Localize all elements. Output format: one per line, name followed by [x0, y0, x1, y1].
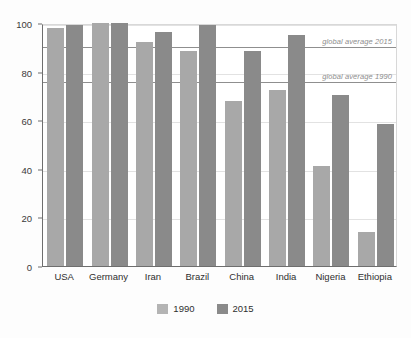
legend-swatch-icon	[217, 304, 228, 314]
bar-ethiopia-2015	[377, 124, 394, 266]
legend-item-1990[interactable]: 1990	[157, 303, 194, 314]
legend-swatch-icon	[157, 304, 168, 314]
bar-ethiopia-1990	[358, 232, 375, 266]
bar-group	[221, 25, 265, 266]
legend-label: 1990	[173, 303, 194, 314]
legend-label: 2015	[233, 303, 254, 314]
bar-india-1990	[269, 90, 286, 266]
x-tick-label: Nigeria	[315, 271, 345, 282]
x-tick-label: Ethiopia	[358, 271, 392, 282]
bar-brazil-2015	[199, 25, 216, 266]
x-tick-label: India	[276, 271, 297, 282]
bar-group	[309, 25, 353, 266]
y-tick-label: 100	[2, 19, 32, 30]
bar-iran-2015	[155, 32, 172, 266]
y-tick-label: 60	[2, 116, 32, 127]
legend-item-2015[interactable]: 2015	[217, 303, 254, 314]
bar-nigeria-1990	[313, 166, 330, 266]
x-tick-label: China	[229, 271, 254, 282]
bar-group	[265, 25, 309, 266]
bar-usa-1990	[47, 28, 64, 266]
bar-nigeria-2015	[332, 95, 349, 266]
x-tick-label: USA	[54, 271, 74, 282]
bar-group	[176, 25, 220, 266]
bar-usa-2015	[66, 25, 83, 266]
plot-area: global average 2015global average 1990	[42, 24, 397, 267]
bar-germany-1990	[92, 23, 109, 266]
x-tick-label: Iran	[145, 271, 161, 282]
x-tick-label: Germany	[89, 271, 128, 282]
bar-brazil-1990	[180, 51, 197, 266]
y-tick-label: 80	[2, 67, 32, 78]
bar-chart-figure: 020406080100 global average 2015global a…	[0, 0, 411, 338]
bar-group	[354, 25, 398, 266]
bar-germany-2015	[111, 23, 128, 266]
x-tick-label: Brazil	[185, 271, 209, 282]
y-tick-label: 0	[2, 262, 32, 273]
bar-group	[87, 25, 131, 266]
bar-china-1990	[225, 101, 242, 266]
chart-legend: 19902015	[0, 303, 411, 314]
bar-group	[132, 25, 176, 266]
bar-india-2015	[288, 35, 305, 266]
bar-iran-1990	[136, 42, 153, 266]
bar-china-2015	[244, 51, 261, 266]
y-tick-label: 20	[2, 213, 32, 224]
y-tick-label: 40	[2, 164, 32, 175]
bar-group	[43, 25, 87, 266]
